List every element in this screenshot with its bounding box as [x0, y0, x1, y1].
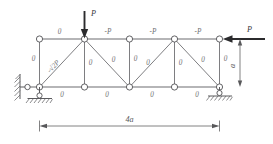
label-vertical-1: 0: [32, 55, 36, 63]
right-roller-wheel: [217, 90, 222, 95]
dim-height-label: a: [228, 64, 237, 68]
label-top-chord-2: -P: [105, 28, 112, 36]
dim-height-arrow-bottom: [238, 81, 242, 88]
load-arrow-right: P: [223, 25, 265, 43]
member-diagonal-1: [40, 39, 85, 87]
left-link-pin: [25, 84, 30, 89]
truss-figure: P P 0 -P -P -P 0 0 0 0 0 0 0 0 0: [0, 0, 273, 144]
load-top-label: P: [90, 9, 96, 18]
label-bottom-chord-3: 0: [150, 91, 154, 99]
member-diagonal-3: [130, 39, 175, 87]
label-vertical-5: 0: [224, 55, 228, 63]
truss-canvas: P P 0 -P -P -P 0 0 0 0 0 0 0 0 0: [0, 0, 273, 144]
label-diagonal-3: 0: [146, 59, 150, 67]
right-support: [207, 87, 233, 101]
label-vertical-3: 0: [134, 55, 138, 63]
label-top-chord-4: -P: [195, 28, 202, 36]
label-bottom-chord-1: 0: [60, 91, 64, 99]
dim-span-arrow-left: [40, 124, 48, 129]
label-diagonal-2: 0: [112, 56, 116, 64]
label-bottom-chord-2: 0: [105, 91, 109, 99]
load-arrow-top: P: [81, 9, 96, 39]
left-support: [15, 74, 53, 103]
label-vertical-4: 0: [179, 59, 183, 67]
left-wall-hatching: [15, 75, 21, 101]
right-roller-hatching: [207, 96, 233, 101]
joint-bottom-3: [126, 84, 132, 90]
joint-top-5: [216, 36, 222, 42]
dimension-height: a: [228, 39, 243, 87]
label-bottom-chord-4: 0: [195, 91, 199, 99]
joint-top-1: [36, 36, 42, 42]
label-diagonal-4: 0: [201, 56, 205, 64]
joint-top-3: [126, 36, 132, 42]
load-right-label: P: [246, 25, 252, 34]
load-right-arrowhead: [223, 35, 233, 43]
dim-span-label: 4a: [125, 115, 133, 124]
label-top-chord-1: 0: [58, 28, 62, 36]
dim-span-arrow-right: [212, 124, 220, 129]
label-vertical-2: 0: [89, 59, 93, 67]
joint-bottom-4: [171, 84, 177, 90]
dimension-span: 4a: [40, 115, 220, 132]
dim-height-arrow-top: [238, 39, 242, 46]
bottom-chord-labels: 0 0 0 0: [60, 91, 199, 99]
joint-top-4: [171, 36, 177, 42]
web-members: [40, 39, 220, 87]
joint-bottom-2: [81, 84, 87, 90]
label-top-chord-3: -P: [150, 28, 157, 36]
left-roller-wheel: [37, 93, 42, 98]
left-roller-hatching: [26, 99, 53, 104]
top-chord-labels: 0 -P -P -P: [58, 28, 202, 36]
